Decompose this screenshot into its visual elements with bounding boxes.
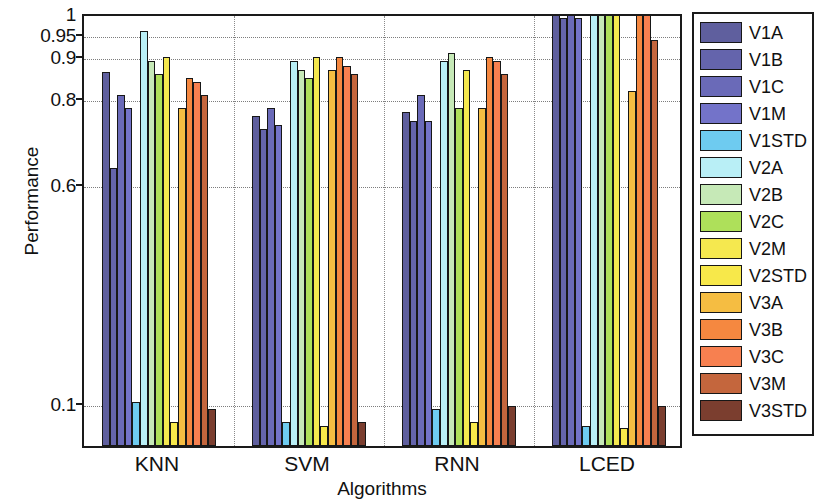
bar [552, 14, 560, 446]
legend-item: V1M [694, 100, 812, 127]
bar [178, 108, 186, 446]
legend-swatch [700, 157, 742, 178]
plot-area [82, 14, 682, 448]
bar [432, 409, 440, 446]
bar [478, 108, 486, 446]
bar [620, 428, 628, 446]
bar [598, 14, 606, 446]
legend-label: V1M [749, 105, 786, 123]
x-tick-label: SVM [284, 452, 330, 476]
legend-swatch [700, 184, 742, 205]
legend-swatch [700, 49, 742, 70]
y-tick-label: 0.1 [50, 395, 76, 414]
bar-group [234, 16, 384, 446]
bar [613, 14, 621, 446]
legend-label: V2A [749, 159, 783, 177]
legend-item: V2A [694, 154, 812, 181]
legend-item: V1B [694, 46, 812, 73]
x-tick-label: LCED [579, 452, 635, 476]
x-tick-label: RNN [434, 452, 480, 476]
bar [463, 70, 471, 446]
bar [567, 14, 575, 446]
legend-label: V3STD [749, 402, 807, 420]
legend-item: V3A [694, 289, 812, 316]
legend-label: V2C [749, 213, 784, 231]
bar [336, 57, 344, 446]
bar [582, 426, 590, 446]
bar [110, 168, 118, 446]
bar [508, 406, 516, 446]
legend-item: V1STD [694, 127, 812, 154]
bar [132, 402, 140, 446]
legend-swatch [700, 103, 742, 124]
legend-swatch [700, 211, 742, 232]
y-tick-label: 0.9 [50, 48, 76, 67]
bar [155, 74, 163, 446]
bar [193, 82, 201, 446]
bar [628, 91, 636, 446]
legend-label: V1STD [749, 132, 807, 150]
legend-swatch [700, 319, 742, 340]
bar [643, 14, 651, 446]
legend-label: V2B [749, 186, 783, 204]
bar [448, 53, 456, 446]
bar [102, 72, 110, 446]
bar [170, 422, 178, 446]
legend-label: V1C [749, 78, 784, 96]
legend-item: V2C [694, 208, 812, 235]
legend-swatch [700, 265, 742, 286]
legend-label: V1B [749, 51, 783, 69]
bar [417, 95, 425, 446]
bar-group [534, 16, 682, 446]
chart-figure: Performance 10.950.90.80.60.1 Algorithms… [0, 0, 821, 501]
legend-swatch [700, 22, 742, 43]
bar [440, 61, 448, 446]
legend-swatch [700, 238, 742, 259]
bar [320, 426, 328, 446]
bar [282, 422, 290, 446]
legend-label: V3C [749, 348, 784, 366]
x-axis-title: Algorithms [82, 478, 682, 500]
bar [275, 125, 283, 446]
legend-item: V2B [694, 181, 812, 208]
bar [425, 121, 433, 446]
legend-item: V3STD [694, 397, 812, 424]
legend-item: V1A [694, 19, 812, 46]
bar [163, 57, 171, 446]
y-tick-label: 0.6 [50, 176, 76, 195]
legend-label: V2M [749, 240, 786, 258]
legend-label: V3A [749, 294, 783, 312]
bar [148, 61, 156, 446]
bar [575, 18, 583, 446]
legend-label: V1A [749, 24, 783, 42]
bar [252, 116, 260, 446]
bar [343, 66, 351, 447]
y-tick-label: 0.95 [40, 26, 76, 45]
bar-group [384, 16, 534, 446]
bar [402, 112, 410, 446]
y-tick-label: 0.8 [50, 90, 76, 109]
bar [298, 70, 306, 446]
bar [658, 406, 666, 446]
bar [305, 78, 313, 446]
x-tick-label: KNN [135, 452, 179, 476]
bar [455, 108, 463, 446]
bar [605, 14, 613, 446]
bar [358, 422, 366, 446]
legend-item: V3B [694, 316, 812, 343]
legend: V1AV1BV1CV1MV1STDV2AV2BV2CV2MV2STDV3AV3B… [692, 12, 814, 436]
legend-item: V2STD [694, 262, 812, 289]
legend-item: V2M [694, 235, 812, 262]
bar [501, 74, 509, 446]
bar [125, 108, 133, 446]
bar [290, 61, 298, 446]
legend-label: V2STD [749, 267, 807, 285]
legend-label: V3M [749, 375, 786, 393]
bar [636, 14, 644, 446]
y-tick-label: 1 [66, 5, 76, 24]
legend-item: V3M [694, 370, 812, 397]
legend-item: V1C [694, 73, 812, 100]
bar-group [84, 16, 234, 446]
bar [590, 14, 598, 446]
bar [313, 57, 321, 446]
